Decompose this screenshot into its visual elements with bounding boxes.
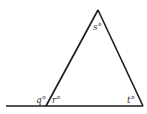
label-r: r°: [52, 95, 61, 105]
label-q: q°: [36, 95, 46, 105]
label-t: t°: [127, 95, 135, 105]
triangle-diagram: s° q° r° t°: [0, 0, 147, 114]
right-side: [98, 10, 143, 106]
left-side: [46, 10, 98, 106]
label-s: s°: [93, 22, 102, 32]
